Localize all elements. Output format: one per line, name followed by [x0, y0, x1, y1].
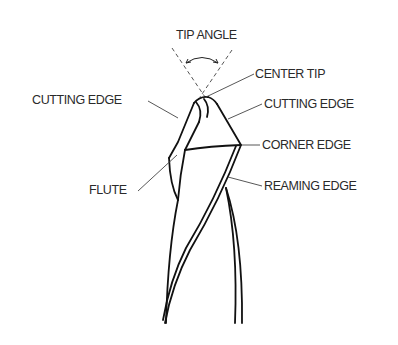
corner-edge-label: CORNER EDGE [262, 138, 351, 152]
center-tip-label: CENTER TIP [255, 67, 325, 81]
tip-angle-lines [172, 48, 232, 97]
cutting-edge-left-label: CUTTING EDGE [32, 93, 122, 107]
drill-diagram: TIP ANGLE CENTER TIP CUTTING EDGE CUTTIN… [0, 0, 398, 345]
reaming-edge-label: REAMING EDGE [264, 179, 356, 193]
tip-angle-arc [186, 58, 218, 64]
drill-illustration [0, 0, 398, 345]
tip-angle-label: TIP ANGLE [176, 28, 237, 42]
leader-lines [138, 74, 262, 191]
flute-label: FLUTE [89, 183, 127, 197]
cutting-edge-right-label: CUTTING EDGE [264, 97, 354, 111]
drill-body [163, 97, 242, 323]
